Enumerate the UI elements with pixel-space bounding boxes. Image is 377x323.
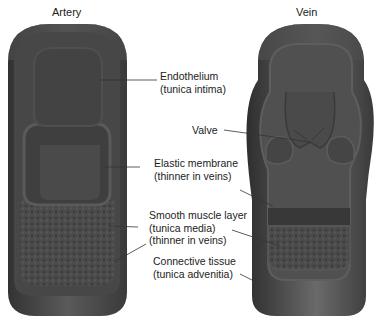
connective-leader-vein bbox=[240, 274, 254, 281]
label-smooth-line3: (thinner in veins) bbox=[149, 234, 247, 247]
label-elastic-line1: Elastic membrane bbox=[154, 157, 238, 170]
label-smooth-line2: (tunica media) bbox=[149, 222, 247, 235]
label-smooth-line1: Smooth muscle layer bbox=[149, 209, 247, 222]
label-endothelium: Endothelium (tunica intima) bbox=[160, 70, 226, 95]
label-smooth-muscle: Smooth muscle layer (tunica media) (thin… bbox=[149, 209, 247, 247]
label-endothelium-line2: (tunica intima) bbox=[160, 83, 226, 96]
vein-title: Vein bbox=[296, 6, 317, 18]
blood-vessel-diagram: Artery Vein Endothelium (tunica intima) … bbox=[0, 0, 377, 323]
label-valve-line1: Valve bbox=[192, 124, 218, 137]
label-endothelium-line1: Endothelium bbox=[160, 70, 226, 83]
label-connective-tissue: Connective tissue (tunica advenitia) bbox=[153, 255, 236, 280]
label-valve: Valve bbox=[192, 124, 218, 137]
artery-illustration bbox=[8, 24, 127, 316]
label-connective-line1: Connective tissue bbox=[153, 255, 236, 268]
vein-illustration bbox=[246, 24, 373, 316]
label-connective-line2: (tunica advenitia) bbox=[153, 268, 236, 281]
artery-title: Artery bbox=[52, 6, 81, 18]
label-elastic-line2: (thinner in veins) bbox=[154, 170, 238, 183]
label-elastic-membrane: Elastic membrane (thinner in veins) bbox=[154, 157, 238, 182]
